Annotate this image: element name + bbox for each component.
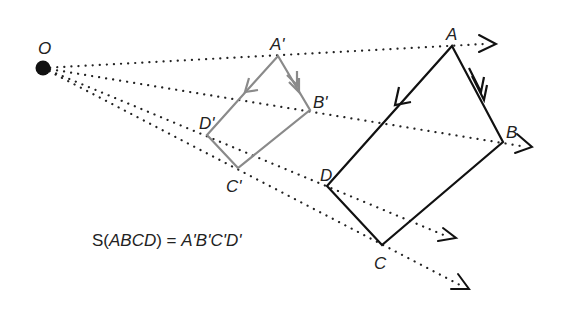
- arrowhead-icon: [438, 228, 456, 241]
- arrowhead-icon: [479, 35, 496, 52]
- eq-arg: ABCD: [109, 231, 156, 250]
- eq-result: A'B'C'D': [181, 231, 241, 250]
- label-a: A: [445, 25, 457, 44]
- eq-mid: ) =: [156, 231, 181, 250]
- arrowhead-icon: [515, 134, 532, 153]
- label-c: C: [374, 254, 387, 273]
- ray-arrowheads: [438, 35, 532, 289]
- label-o: O: [38, 39, 51, 58]
- quadrilateral-abcd: [327, 46, 503, 245]
- eq-prefix: S(: [92, 231, 109, 250]
- ray-oa: [43, 44, 484, 68]
- dilation-equation: S(ABCD) = A'B'C'D': [92, 231, 242, 251]
- label-b-prime: B': [313, 93, 328, 112]
- ray-ob: [43, 68, 521, 146]
- arrowhead-icon: [451, 274, 469, 289]
- dilation-diagram: O A' B' C' D' A B C D: [0, 0, 564, 309]
- label-d-prime: D': [199, 114, 215, 133]
- quadrilateral-image: [207, 56, 310, 168]
- label-c-prime: C': [226, 177, 242, 196]
- label-b: B: [506, 123, 517, 142]
- label-a-prime: A': [269, 35, 285, 54]
- ray-oc: [43, 68, 460, 285]
- label-d: D: [320, 166, 332, 185]
- center-point: [36, 61, 51, 76]
